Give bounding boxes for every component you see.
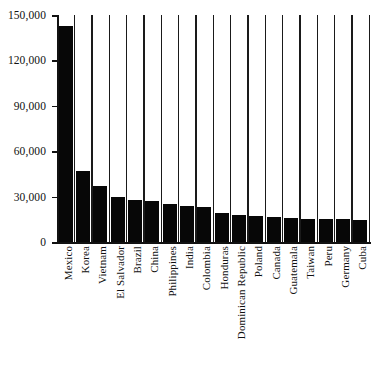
- x-tick-slot: Colombia: [197, 246, 214, 364]
- bar: [336, 219, 350, 242]
- y-tick-label: 150,000: [8, 9, 46, 21]
- y-tick-mark: [52, 151, 58, 153]
- x-tick-slot: Cuba: [353, 246, 370, 364]
- x-tick-slot: Poland: [249, 246, 266, 364]
- bar: [232, 215, 246, 242]
- x-tick-label: Brazil: [131, 246, 143, 273]
- y-tick-mark: [52, 60, 58, 62]
- bar: [284, 218, 298, 242]
- x-tick-label: Colombia: [200, 246, 212, 290]
- x-tick-slot: El Salvador: [110, 246, 127, 364]
- x-tick-label: Dominican Republic: [235, 246, 247, 339]
- y-tick-mark: [52, 242, 58, 244]
- bar: [145, 201, 159, 242]
- x-tick-slot: Korea: [75, 246, 92, 364]
- x-tick-slot: Brazil: [127, 246, 144, 364]
- x-tick-label: Vietnam: [96, 246, 108, 284]
- bar: [93, 186, 107, 242]
- x-tick-label: Honduras: [218, 246, 230, 290]
- x-tick-label: India: [183, 246, 195, 269]
- x-tick-slot: Philippines: [162, 246, 179, 364]
- x-tick-slot: China: [145, 246, 162, 364]
- bar: [319, 219, 333, 242]
- x-tick-slot: India: [179, 246, 196, 364]
- bar: [128, 200, 142, 242]
- y-tick-label: 120,000: [8, 54, 46, 66]
- bar-column: [197, 15, 214, 242]
- bar-column: [283, 15, 300, 242]
- y-tick-mark: [52, 15, 58, 17]
- bar: [267, 217, 281, 242]
- bar-column: [179, 15, 196, 242]
- bar-chart: 030,00060,00090,000120,000150,000 Mexico…: [0, 0, 376, 367]
- bar-column: [214, 15, 231, 242]
- y-axis: 030,00060,00090,000120,000150,000: [0, 0, 52, 260]
- y-tick-mark: [52, 197, 58, 199]
- x-tick-label: Mexico: [62, 246, 74, 280]
- bar: [197, 207, 211, 242]
- bar-column: [249, 15, 266, 242]
- bar: [353, 220, 367, 242]
- x-tick-slot: Germany: [335, 246, 352, 364]
- bar: [215, 213, 229, 242]
- bar-column: [335, 15, 352, 242]
- plot-area: [58, 15, 370, 242]
- bar-column: [127, 15, 144, 242]
- y-tick-label: 30,000: [14, 191, 46, 203]
- bar-column: [231, 15, 248, 242]
- bar-column: [93, 15, 110, 242]
- bar: [180, 206, 194, 242]
- x-tick-label: Guatemala: [287, 246, 299, 295]
- x-tick-slot: Guatemala: [283, 246, 300, 364]
- x-tick-slot: Taiwan: [301, 246, 318, 364]
- x-tick-label: El Salvador: [114, 246, 126, 299]
- y-tick-label: 90,000: [14, 100, 46, 112]
- x-tick-slot: Vietnam: [93, 246, 110, 364]
- bar-column: [58, 15, 75, 242]
- bar: [76, 171, 90, 242]
- x-tick-label: Korea: [79, 246, 91, 273]
- x-tick-label: Cuba: [356, 246, 368, 270]
- bar-column: [301, 15, 318, 242]
- x-tick-label: Poland: [252, 246, 264, 277]
- bar-column: [75, 15, 92, 242]
- x-tick-label: Germany: [339, 246, 351, 288]
- x-tick-slot: Canada: [266, 246, 283, 364]
- y-tick-mark: [52, 106, 58, 108]
- x-tick-slot: Honduras: [214, 246, 231, 364]
- bar-column: [318, 15, 335, 242]
- x-tick-slot: Peru: [318, 246, 335, 364]
- bar: [301, 219, 315, 242]
- bar: [111, 197, 125, 242]
- x-tick-label: China: [148, 246, 160, 273]
- bar: [249, 216, 263, 242]
- x-tick-label: Canada: [270, 246, 282, 280]
- x-axis: MexicoKoreaVietnamEl SalvadorBrazilChina…: [58, 246, 370, 364]
- bar-column: [162, 15, 179, 242]
- y-tick-label: 60,000: [14, 145, 46, 157]
- y-tick-label: 0: [40, 236, 46, 248]
- x-axis-line: [57, 242, 371, 244]
- x-tick-slot: Mexico: [58, 246, 75, 364]
- x-tick-slot: Dominican Republic: [231, 246, 248, 364]
- bar-column: [145, 15, 162, 242]
- bar: [59, 26, 73, 242]
- bar-column: [353, 15, 370, 242]
- x-tick-label: Philippines: [166, 246, 178, 297]
- bar: [163, 204, 177, 242]
- bar-column: [110, 15, 127, 242]
- column-separator-line: [369, 15, 370, 242]
- bar-column: [266, 15, 283, 242]
- x-tick-label: Peru: [322, 246, 334, 267]
- x-tick-label: Taiwan: [304, 246, 316, 279]
